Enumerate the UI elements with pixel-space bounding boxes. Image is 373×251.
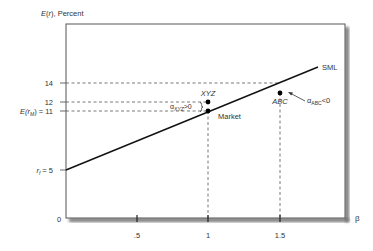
abc-label: ABC (271, 97, 288, 106)
y-ticks (60, 83, 66, 170)
y-axis-title: E(r), Percent (41, 9, 84, 18)
point-market (206, 109, 211, 114)
market-label: Market (218, 112, 242, 121)
y-tick-12: 12 (45, 98, 53, 107)
plot-frame (66, 24, 345, 218)
y-tick-14: 14 (45, 79, 53, 88)
xyz-label: XYZ (200, 89, 216, 98)
point-abc (278, 91, 283, 96)
sml-chart: E(r), Percent 14 12 E(rM) = 11 rf = 5 0 … (0, 0, 373, 251)
point-xyz (206, 100, 211, 105)
y-tick-erm: E(rM) = 11 (20, 107, 53, 117)
x-tick-05: .5 (134, 231, 140, 240)
sml-label: SML (322, 63, 337, 72)
x-tick-15: 1.5 (275, 231, 285, 240)
y-tick-0: 0 (57, 215, 61, 224)
x-tick-1: 1 (206, 231, 210, 240)
x-axis-title: β (355, 214, 360, 223)
y-tick-rf: rf = 5 (36, 166, 53, 176)
